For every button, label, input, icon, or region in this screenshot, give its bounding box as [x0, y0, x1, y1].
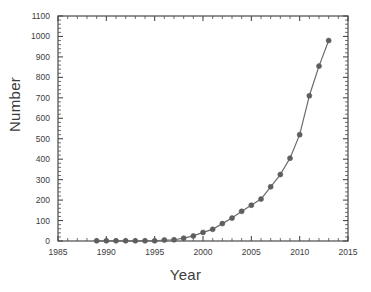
x-tick-label: 2015 [339, 247, 358, 257]
y-tick-label: 900 [36, 52, 50, 62]
y-axis-title: Number [6, 65, 23, 145]
x-tick-label: 1995 [145, 247, 164, 257]
y-tick-label: 600 [36, 113, 50, 123]
data-point [172, 237, 177, 242]
y-tick-label: 0 [45, 236, 50, 246]
y-tick-label: 500 [36, 134, 50, 144]
y-tick-label: 100 [36, 216, 50, 226]
chart-figure: 1985199019952000200520102015010020030040… [0, 0, 371, 292]
data-point [181, 236, 186, 241]
y-tick-label: 800 [36, 72, 50, 82]
x-axis-title: Year [0, 266, 371, 283]
data-point [104, 238, 109, 243]
data-point [210, 227, 215, 232]
data-point [94, 238, 99, 243]
y-tick-label: 1100 [32, 11, 51, 21]
data-point [278, 172, 283, 177]
data-point [114, 238, 119, 243]
data-point [191, 233, 196, 238]
data-point [152, 238, 157, 243]
data-point [326, 38, 331, 43]
x-tick-label: 2000 [194, 247, 213, 257]
plot-area: 1985199019952000200520102015010020030040… [31, 11, 358, 257]
data-point [143, 238, 148, 243]
x-tick-label: 2005 [242, 247, 261, 257]
data-point [220, 221, 225, 226]
y-tick-label: 700 [36, 93, 50, 103]
data-point [317, 64, 322, 69]
x-tick-label: 2010 [290, 247, 309, 257]
y-tick-label: 400 [36, 154, 50, 164]
data-point [307, 93, 312, 98]
line-chart: 1985199019952000200520102015010020030040… [0, 0, 371, 292]
y-tick-label: 300 [36, 175, 50, 185]
y-tick-label: 1000 [31, 31, 50, 41]
data-line [97, 41, 329, 241]
data-point [288, 156, 293, 161]
data-point [249, 203, 254, 208]
x-tick-label: 1990 [97, 247, 116, 257]
data-point [201, 230, 206, 235]
plot-frame [58, 16, 348, 241]
data-point [268, 184, 273, 189]
data-point [239, 209, 244, 214]
x-tick-label: 1985 [49, 247, 68, 257]
data-point [230, 216, 235, 221]
data-point [297, 132, 302, 137]
y-tick-label: 200 [36, 195, 50, 205]
data-point [259, 197, 264, 202]
data-point [162, 237, 167, 242]
data-point [133, 238, 138, 243]
data-point [123, 238, 128, 243]
